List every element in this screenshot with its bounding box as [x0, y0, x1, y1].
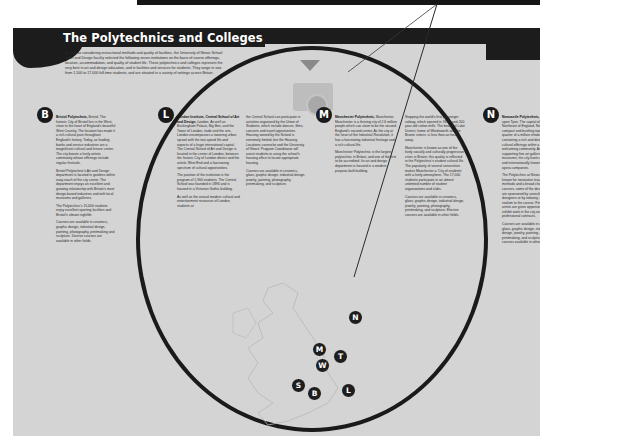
- leader-lines: [0, 0, 624, 445]
